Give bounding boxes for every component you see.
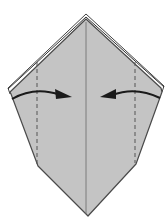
diagram-canvas [0,0,166,223]
origami-diagram [0,0,166,223]
